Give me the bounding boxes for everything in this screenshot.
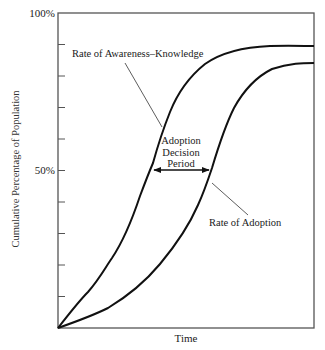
y-tick-100: 100% bbox=[29, 7, 55, 19]
period-label-line1: Adoption bbox=[161, 135, 201, 146]
x-axis-label: Time bbox=[175, 332, 198, 344]
period-label-line3: Period bbox=[167, 158, 195, 169]
awareness-leader-line bbox=[125, 63, 162, 127]
y-tick-50: 50% bbox=[35, 164, 55, 176]
period-label-line2: Decision bbox=[162, 147, 200, 158]
adoption-leader-line bbox=[212, 183, 248, 215]
awareness-label: Rate of Awareness–Knowledge bbox=[72, 48, 204, 59]
adoption-curve bbox=[58, 63, 314, 328]
diffusion-chart: 100% 50% Time Adoption Decision Period R… bbox=[0, 0, 325, 350]
awareness-curve bbox=[58, 46, 314, 328]
adoption-label: Rate of Adoption bbox=[209, 217, 282, 228]
y-axis-ticks bbox=[58, 45, 65, 297]
y-axis-label: Cumulative Percentage of Population bbox=[10, 90, 21, 247]
